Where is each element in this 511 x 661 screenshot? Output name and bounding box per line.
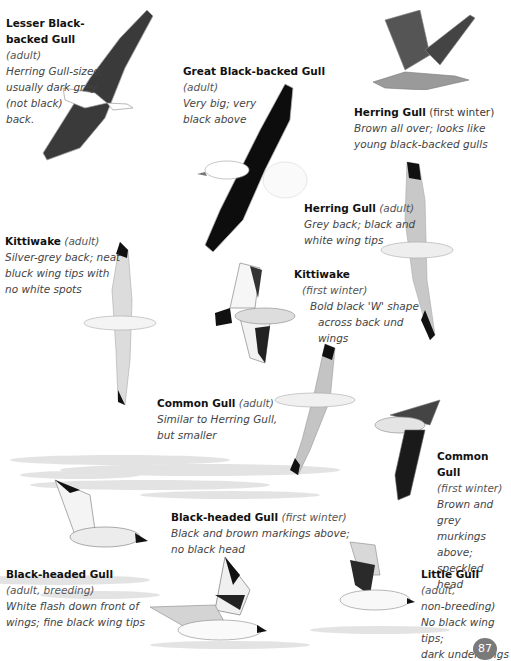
species-desc: White flash down front of	[6, 598, 161, 614]
species-note: (first winter)	[437, 482, 502, 494]
species-desc: but smaller	[157, 427, 297, 443]
species-name: Common Gull	[157, 397, 235, 409]
species-desc: Brown all over; looks like	[354, 120, 509, 136]
species-note: (first winter)	[281, 511, 346, 523]
species-desc: young black-backed gulls	[354, 136, 509, 152]
species-desc: black above	[183, 111, 343, 127]
species-desc: Grey back; black and	[304, 216, 424, 232]
species-desc: bluck wing tips with	[5, 265, 135, 281]
species-name: Black-headed Gull	[6, 568, 113, 580]
species-desc: no white spots	[5, 281, 135, 297]
caption-lesser-black-backed-gull: Lesser Black-backed Gull (adult) Herring…	[6, 15, 116, 127]
black-headed-gull-first-winter-illustration	[50, 475, 150, 555]
species-desc: (not black)	[6, 95, 116, 111]
species-desc: Silver-grey back; neat	[5, 249, 135, 265]
herring-gull-first-winter-illustration	[365, 10, 505, 90]
species-name: Herring Gull	[354, 106, 426, 118]
species-note: (adult)	[6, 49, 41, 61]
species-note: (adult)	[183, 81, 218, 93]
common-gull-first-winter-illustration	[370, 395, 445, 505]
species-desc: Similar to Herring Gull,	[157, 411, 297, 427]
species-name: Herring Gull	[304, 202, 376, 214]
species-note: (adult, breeding)	[6, 584, 94, 596]
species-desc: across back und wings	[294, 314, 424, 346]
species-desc: Very big; very	[183, 95, 343, 111]
species-desc: Black and brown markings above;	[171, 525, 351, 541]
caption-little-gull: Little Gull (adult, non-breeding) No bla…	[421, 566, 511, 661]
page-number-badge: 87	[473, 638, 497, 660]
species-name: Great Black-backed Gull	[183, 65, 325, 77]
species-name: Kittiwake	[5, 235, 61, 247]
species-desc: Herring Gull-sized;	[6, 63, 116, 79]
species-desc: dark underwings	[421, 646, 511, 661]
species-desc: white wing tips	[304, 232, 424, 248]
species-note: (adult)	[379, 202, 414, 214]
black-headed-gull-adult-illustration	[145, 555, 275, 650]
species-desc: Brown and grey	[437, 496, 509, 528]
species-name: Kittiwake	[294, 268, 350, 280]
species-desc: wings; fine black wing tips	[6, 614, 161, 630]
species-note: (first winter)	[429, 106, 494, 118]
species-name: Lesser Black-backed Gull	[6, 17, 85, 45]
species-desc: back.	[6, 111, 116, 127]
species-desc: murkings above;	[437, 528, 509, 560]
caption-kittiwake-first-winter: Kittiwake (first winter) Bold black 'W' …	[294, 266, 424, 346]
species-name: Black-headed Gull	[171, 511, 278, 523]
species-name: Common Gull	[437, 450, 489, 478]
caption-herring-gull-first-winter: Herring Gull (first winter) Brown all ov…	[354, 104, 509, 152]
species-desc: no black head	[171, 541, 351, 557]
caption-kittiwake-adult: Kittiwake (adult) Silver-grey back; neat…	[5, 233, 135, 297]
species-note: (adult)	[239, 397, 274, 409]
caption-great-black-backed-gull: Great Black-backed Gull (adult) Very big…	[183, 63, 343, 127]
species-note: (adult)	[64, 235, 99, 247]
species-desc: Bold black 'W' shape	[294, 298, 424, 314]
caption-black-headed-gull-first-winter: Black-headed Gull (first winter) Black a…	[171, 509, 351, 557]
species-desc: No black wing tips;	[421, 614, 511, 646]
caption-common-gull-adult: Common Gull (adult) Similar to Herring G…	[157, 395, 297, 443]
caption-black-headed-gull-adult: Black-headed Gull (adult, breeding) Whit…	[6, 566, 161, 630]
species-name: Little Gull	[421, 568, 479, 580]
species-desc: usually dark grey	[6, 79, 116, 95]
species-note-continued: non-breeding)	[421, 598, 511, 614]
species-note: (adult,	[421, 584, 455, 596]
caption-herring-gull-adult: Herring Gull (adult) Grey back; black an…	[304, 200, 424, 248]
species-note: (first winter)	[294, 282, 424, 298]
